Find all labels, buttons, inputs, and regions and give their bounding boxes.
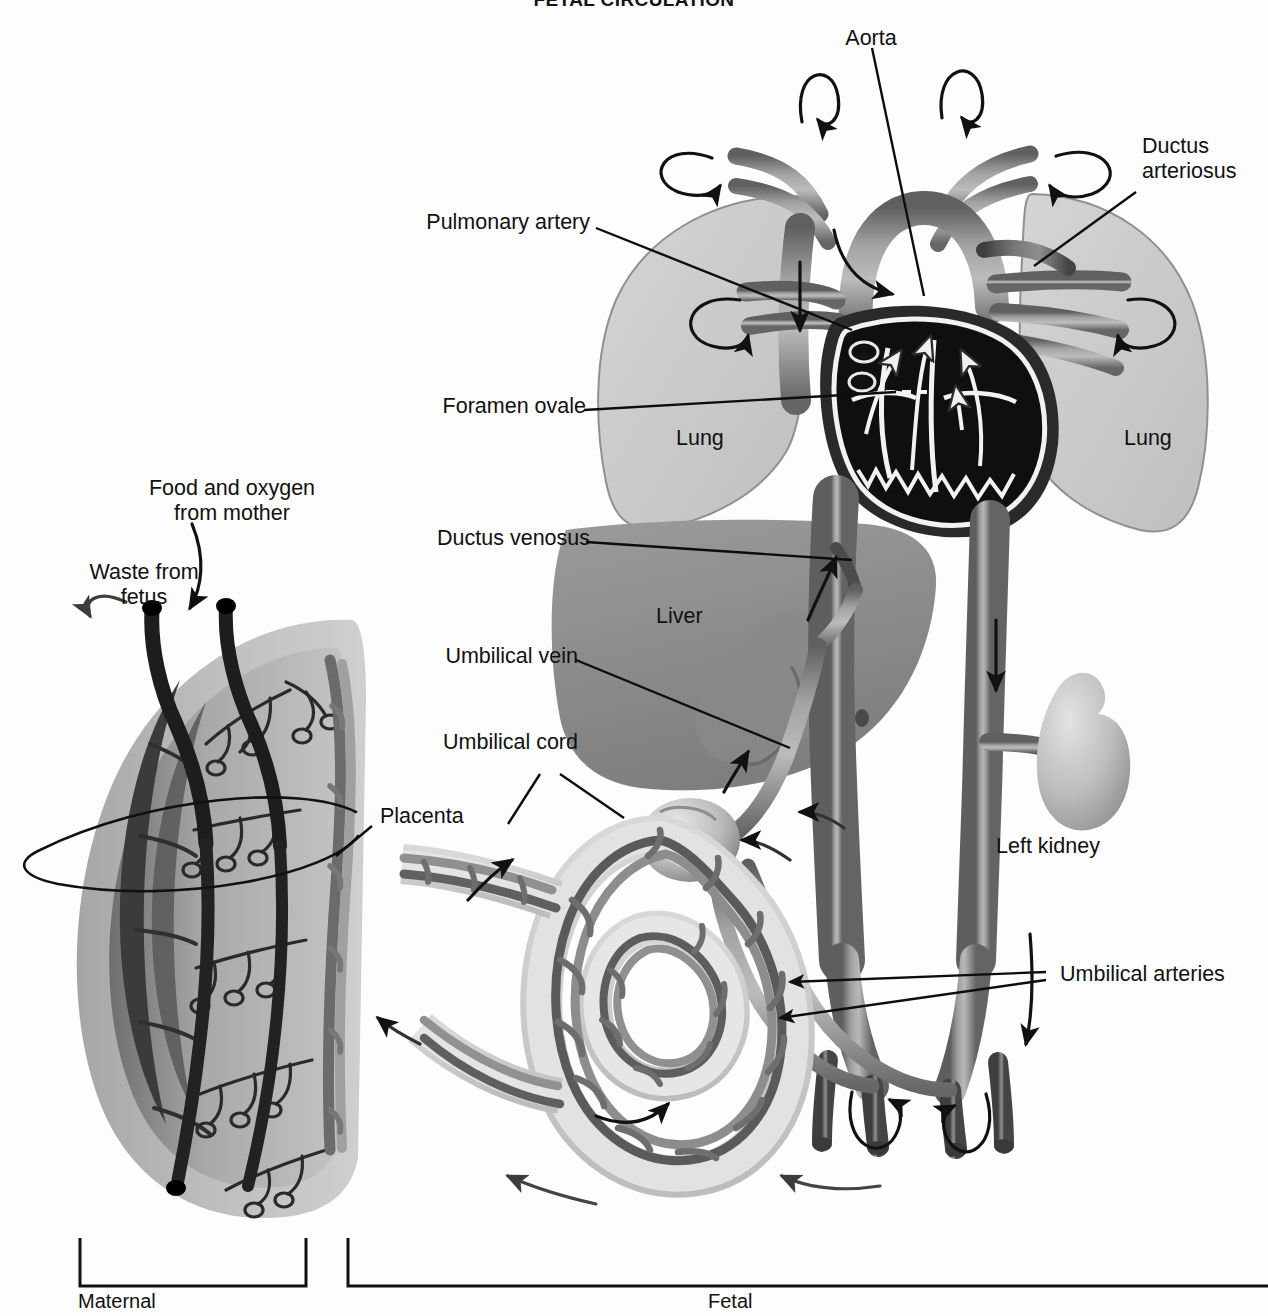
lung-left-shape	[598, 196, 806, 529]
label-lung-right: Lung	[1124, 426, 1172, 451]
left-kidney-shape	[1037, 673, 1130, 831]
label-umbilical-arteries: Umbilical arteries	[1060, 962, 1225, 987]
label-foramen-ovale: Foramen ovale	[366, 394, 586, 419]
label-liver: Liver	[656, 604, 703, 629]
figure-canvas: FETAL CIRCULATION Aorta Ductus arteriosu…	[0, 0, 1268, 1316]
page-title: FETAL CIRCULATION	[0, 0, 1268, 11]
label-ductus-arteriosus: Ductus arteriosus	[1142, 134, 1236, 184]
bracket-label-maternal: Maternal	[78, 1290, 156, 1313]
label-food-and-oxygen: Food and oxygen from mother	[112, 476, 352, 526]
label-lung-left: Lung	[676, 426, 724, 451]
bracket-label-fetal: Fetal	[708, 1290, 752, 1313]
label-left-kidney: Left kidney	[996, 834, 1100, 859]
label-waste-from-fetus: Waste from fetus	[58, 560, 230, 610]
placenta-shape	[77, 598, 366, 1218]
label-pulmonary-artery: Pulmonary artery	[370, 210, 590, 235]
leader-umbilical-artery-2	[780, 980, 1046, 1018]
label-umbilical-vein: Umbilical vein	[366, 644, 578, 669]
fetal-circulation-artwork	[0, 0, 1268, 1316]
leader-umbilical-cord-a	[508, 774, 540, 824]
umbilical-cord-shape	[402, 830, 794, 1177]
label-aorta: Aorta	[806, 26, 936, 51]
label-ductus-venosus: Ductus venosus	[366, 526, 590, 551]
liver-shape	[552, 520, 936, 791]
label-umbilical-cord: Umbilical cord	[366, 730, 578, 755]
label-placenta: Placenta	[380, 804, 464, 829]
